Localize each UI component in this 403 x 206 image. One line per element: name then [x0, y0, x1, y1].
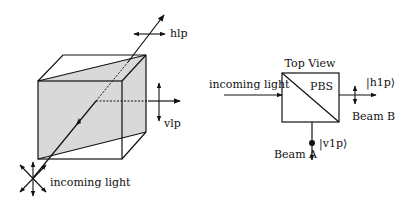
- splitting-plane: [38, 55, 146, 159]
- top-view-title: Top View: [285, 57, 336, 70]
- hlp-label: hlp: [170, 27, 188, 40]
- beam-b-state: |h1p⟩: [366, 76, 395, 90]
- beam-a-state: |v1p⟩: [319, 137, 347, 151]
- incoming-light-label: incoming light: [50, 176, 131, 189]
- figure-canvas: incoming light hlp vlp Top View PBS inco…: [0, 0, 403, 206]
- vlp-label: vlp: [163, 117, 181, 130]
- pbs-label: PBS: [310, 80, 333, 93]
- pbs-cube-3d: [38, 55, 146, 159]
- beam-b-label: Beam B: [352, 110, 395, 123]
- beam-a-out-of-plane-polarization-icon: [309, 140, 315, 146]
- beam-a-label: Beam A: [274, 148, 318, 161]
- input-light-label: incoming light: [209, 78, 290, 91]
